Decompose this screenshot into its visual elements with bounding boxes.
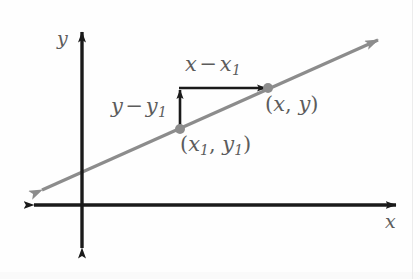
point-1-label-x: x (188, 132, 200, 156)
point-2-label-open-paren: ( (265, 92, 273, 116)
point-1-label-x-subscript: 1 (200, 142, 209, 158)
rise-label-var1: y (111, 94, 123, 118)
x-axis-label: x (385, 212, 396, 231)
point-2-label-y: y (298, 92, 310, 116)
y-axis-label: y (57, 29, 68, 48)
point-1-label-comma: , (209, 132, 216, 156)
run-label-subscript: 1 (232, 62, 241, 78)
run-label-operator: − (197, 52, 219, 76)
rise-label-subscript: 1 (158, 104, 167, 120)
rise-label-var2: y (146, 94, 158, 118)
point-2-label-close-paren: ) (310, 92, 318, 116)
point-1-label: (x1, y1) (180, 134, 251, 155)
point-2-label: (x, y) (265, 94, 319, 115)
point-2-label-x: x (273, 92, 285, 116)
point-1-label-y-subscript: 1 (234, 142, 243, 158)
point-1-label-y: y (222, 132, 234, 156)
rise-label: y−y1 (111, 96, 167, 117)
run-label-var2: x (220, 52, 232, 76)
run-label-var1: x (185, 52, 197, 76)
point-1-label-close-paren: ) (243, 132, 251, 156)
rise-label-operator: − (123, 94, 145, 118)
point-1-label-open-paren: ( (180, 132, 188, 156)
run-label: x−x1 (185, 54, 241, 75)
point-2-label-comma: , (285, 92, 292, 116)
slope-diagram-figure: x−x1 y−y1 (x1, y1) (x, y) y x (0, 0, 420, 279)
